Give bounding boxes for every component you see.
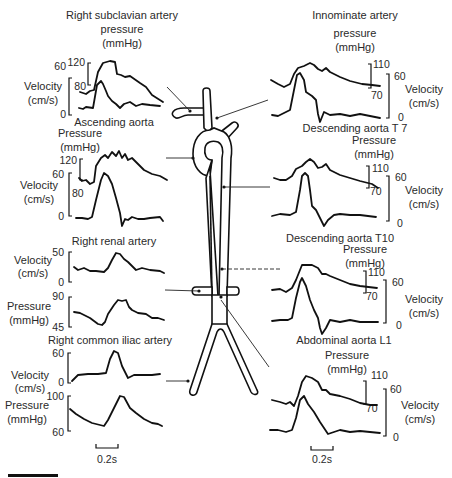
velocity-label: Velocity	[24, 80, 62, 92]
pressure-tick-max: 120	[59, 154, 77, 166]
time-scale-label: 0.2s	[312, 453, 332, 465]
pressure-tick-min: 80	[72, 187, 84, 199]
panel-title-line2: pressure	[334, 27, 377, 39]
velocity-unit: (cm/s)	[28, 94, 59, 106]
pressure-trace	[74, 300, 164, 325]
velocity-label: Velocity	[405, 293, 443, 305]
pointer-innominate	[217, 100, 268, 118]
velocity-tick-max: 60	[394, 70, 406, 82]
velocity-label: Velocity	[405, 184, 443, 196]
pressure-unit: (mmHg)	[354, 148, 394, 160]
pressure-trace	[274, 159, 378, 188]
pressure-unit: (mmHg)	[7, 413, 47, 425]
pressure-tick-min: 45	[52, 321, 64, 333]
velocity-tick-max: 60	[390, 383, 402, 395]
pressure-tick-min: 70	[371, 89, 383, 101]
velocity-unit: (cm/s)	[409, 198, 440, 210]
pressure-label: Pressure	[352, 134, 396, 146]
time-scale-bracket	[96, 444, 118, 448]
velocity-tick-min: 0	[393, 431, 399, 443]
aortic-waveform-diagram: Right subclavian artery pressure (mmHg) …	[0, 0, 452, 478]
panel-title-line3: (mmHg)	[335, 41, 375, 53]
panel-title: Right renal artery	[72, 235, 157, 247]
velocity-tick-max: 60	[395, 171, 407, 183]
pressure-label: Pressure	[343, 243, 387, 255]
panel-right-common-iliac: Right common iliac artery 60 0 Velocity …	[5, 334, 173, 465]
velocity-tick-max: 60	[54, 60, 66, 72]
pressure-axis	[363, 381, 366, 404]
velocity-tick-max: 60	[52, 347, 64, 359]
iliac-bifurcation-vessel	[190, 324, 258, 395]
panel-title: Descending aorta T 7	[303, 122, 408, 134]
pointer-right-subclavian	[167, 87, 190, 111]
pressure-unit: (mmHg)	[327, 363, 367, 375]
velocity-trace	[270, 396, 380, 434]
pressure-tick-max: 120	[67, 56, 85, 68]
pressure-label: Pressure	[325, 349, 369, 361]
pressure-trace	[271, 63, 380, 87]
panel-title: Right common iliac artery	[48, 334, 173, 346]
velocity-unit: (cm/s)	[409, 307, 440, 319]
velocity-axis	[383, 389, 386, 436]
scale-bar	[8, 474, 58, 477]
pressure-tick-min: 80	[74, 80, 86, 92]
velocity-axis	[383, 280, 386, 323]
aorta-illustration	[172, 88, 257, 395]
velocity-tick-min: 0	[396, 319, 402, 331]
velocity-axis	[69, 78, 72, 115]
pressure-label: Pressure	[5, 399, 49, 411]
left-renal-vessel	[227, 287, 239, 295]
panel-title-line2: pressure	[101, 23, 144, 35]
time-scale-label: 0.2s	[97, 453, 117, 465]
time-scale-bracket	[311, 446, 333, 450]
velocity-tick-min: 0	[58, 276, 64, 288]
velocity-unit: (cm/s)	[405, 413, 436, 425]
innominate-vessel	[203, 88, 212, 132]
velocity-label: Velocity	[20, 179, 58, 191]
pressure-trace	[70, 396, 162, 426]
panel-title-line1: Right subclavian artery	[66, 9, 178, 21]
velocity-tick-min: 0	[58, 376, 64, 388]
velocity-tick-max: 60	[392, 276, 404, 288]
lower-aorta-vessel	[212, 295, 227, 326]
pressure-axis	[80, 159, 83, 180]
pressure-axis	[68, 396, 71, 431]
panel-title-line1: Innominate artery	[312, 9, 398, 21]
velocity-unit: (cm/s)	[24, 193, 55, 205]
pressure-trace	[79, 151, 167, 184]
pressure-axis	[363, 271, 366, 293]
velocity-axis	[386, 74, 389, 118]
pressure-axis	[366, 166, 369, 188]
pressure-tick-max: 110	[372, 162, 389, 174]
velocity-tick-max: 50	[52, 246, 64, 258]
pressure-tick-min: 70	[366, 290, 378, 302]
velocity-label: Velocity	[401, 399, 439, 411]
pressure-label: Pressure	[58, 127, 102, 139]
pressure-tick-max: 110	[371, 369, 388, 381]
velocity-trace	[72, 351, 160, 381]
pressure-axis	[88, 63, 91, 85]
pressure-tick-max: 110	[368, 266, 385, 278]
velocity-trace	[76, 173, 163, 226]
panel-title: Abdominal aorta L1	[296, 334, 391, 346]
pressure-tick-max: 100	[46, 390, 64, 402]
panel-title-line3: (mmHg)	[102, 37, 142, 49]
pressure-unit: (mmHg)	[9, 314, 49, 326]
pressure-trace	[272, 265, 377, 292]
panel-descending-t10: Descending aorta T10 Pressure (mmHg) 110…	[272, 232, 443, 334]
velocity-trace	[74, 253, 164, 273]
velocity-unit: (cm/s)	[15, 382, 46, 394]
pressure-tick-max: 110	[373, 58, 390, 70]
velocity-tick-min: 0	[58, 210, 64, 222]
velocity-label: Velocity	[405, 83, 443, 95]
velocity-tick-min: 0	[60, 108, 66, 120]
pressure-label: Pressure	[7, 300, 51, 312]
velocity-unit: (cm/s)	[18, 267, 49, 279]
panel-descending-t7: Descending aorta T 7 Pressure (mmHg) 110…	[272, 122, 443, 229]
pressure-trace	[80, 61, 163, 102]
velocity-unit: (cm/s)	[409, 97, 440, 109]
velocity-label: Velocity	[14, 254, 52, 266]
pressure-tick-min: 60	[52, 426, 64, 438]
site-marker	[219, 295, 222, 298]
panel-right-renal: Right renal artery 50 0 Velocity (cm/s) …	[7, 235, 164, 333]
